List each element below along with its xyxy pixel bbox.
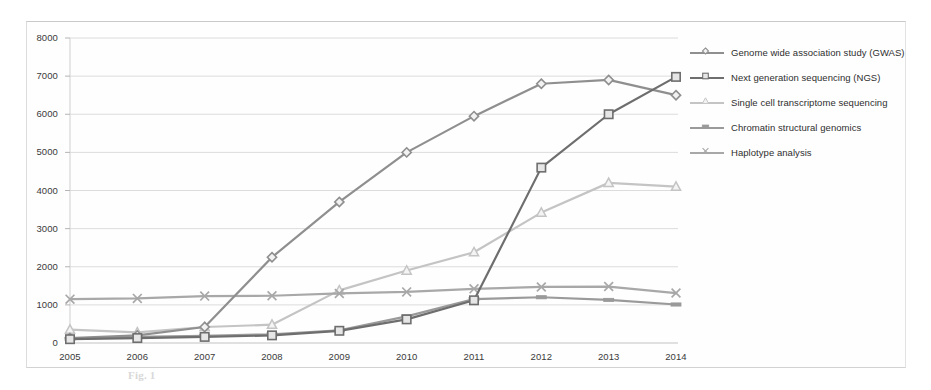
x-tick-label: 2009 [316,351,362,362]
legend-item-label: Single cell transcriptome sequencing [731,97,888,108]
series-0 [65,75,680,342]
legend-marker-icon [690,97,724,109]
y-tick-label: 3000 [14,223,58,234]
legend-item-label: Next generation sequencing (NGS) [731,72,880,83]
legend-item-0[interactable]: Genome wide association study (GWAS) [690,40,928,65]
x-tick-label: 2011 [451,351,497,362]
legend-item-label: Chromatin structural genomics [731,122,861,133]
x-tick-label: 2012 [518,351,564,362]
y-tick-label: 4000 [14,185,58,196]
x-tick-label: 2007 [182,351,228,362]
legend-item-4[interactable]: Haplotype analysis [690,140,928,165]
legend-item-1[interactable]: Next generation sequencing (NGS) [690,65,928,90]
y-tick-label: 7000 [14,70,58,81]
chart-legend: Genome wide association study (GWAS)Next… [690,40,928,165]
series-4 [66,282,681,303]
figure-container: 010002000300040005000600070008000 200520… [0,0,931,390]
y-tick-label: 8000 [14,32,58,43]
legend-marker-icon [690,72,724,84]
legend-marker-icon [690,122,724,134]
y-tick-label: 6000 [14,108,58,119]
figure-caption: Fig. 1 [128,369,155,381]
y-tick-label: 5000 [14,146,58,157]
x-tick-label: 2013 [586,351,632,362]
x-tick-label: 2006 [114,351,160,362]
y-tick-label: 0 [14,337,58,348]
legend-marker-icon [690,147,724,159]
legend-item-label: Haplotype analysis [731,147,812,158]
series-2 [65,178,680,336]
x-tick-label: 2005 [47,351,93,362]
x-tick-label: 2008 [249,351,295,362]
legend-item-2[interactable]: Single cell transcriptome sequencing [690,90,928,115]
legend-marker-icon [690,47,724,59]
series-1 [66,73,680,344]
y-tick-label: 2000 [14,261,58,272]
legend-item-label: Genome wide association study (GWAS) [731,47,905,58]
y-tick-label: 1000 [14,299,58,310]
x-tick-label: 2014 [653,351,699,362]
x-tick-label: 2010 [384,351,430,362]
legend-item-3[interactable]: Chromatin structural genomics [690,115,928,140]
